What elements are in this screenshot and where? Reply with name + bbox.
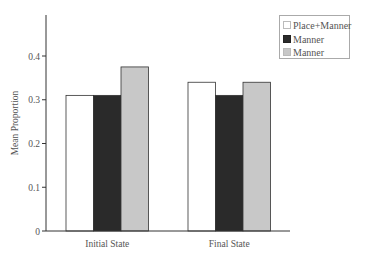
legend-item-manner-gray: Manner — [283, 46, 324, 58]
legend-label: Manner — [293, 47, 324, 58]
category-labels-group: Initial StateFinal State — [85, 239, 249, 249]
legend-swatch-gray — [283, 48, 291, 56]
y-ticks-group: 00.10.20.30.4 — [28, 52, 46, 237]
y-tick-label: 0.3 — [28, 95, 40, 105]
legend-label: Place+Manner — [293, 20, 351, 31]
legend: Place+Manner Manner Manner — [279, 15, 350, 59]
y-tick-label: 0.1 — [28, 183, 40, 193]
legend-item-place-manner: Place+Manner — [283, 19, 351, 31]
legend-label: Manner — [293, 34, 324, 45]
bar — [94, 95, 122, 231]
x-category-label: Final State — [209, 239, 250, 249]
y-tick-label: 0.4 — [28, 52, 40, 62]
y-tick-label: 0 — [35, 227, 40, 237]
bar — [188, 82, 216, 231]
legend-item-manner-black: Manner — [283, 33, 324, 45]
bars-group — [66, 67, 271, 231]
y-tick-label: 0.2 — [28, 139, 40, 149]
y-axis-title: Mean Proportion — [10, 90, 20, 155]
x-category-label: Initial State — [85, 239, 129, 249]
bar — [66, 95, 94, 231]
legend-swatch-black — [283, 35, 291, 43]
legend-swatch-white — [283, 21, 291, 29]
bar — [121, 67, 149, 231]
bar — [216, 95, 244, 231]
bar — [243, 82, 271, 231]
